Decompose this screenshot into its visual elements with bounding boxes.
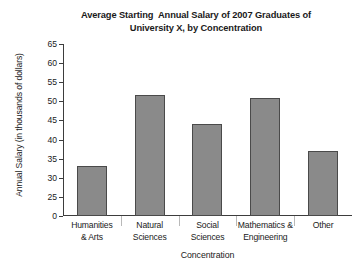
y-axis-title: Annual Salary (in thousands of dollars) — [14, 35, 24, 215]
category-label: Social Sciences — [179, 220, 237, 243]
bar-chart: Average Starting Annual Salary of 2007 G… — [0, 0, 363, 274]
bar-social-sciences — [192, 124, 222, 216]
y-tick-label: 55 — [47, 78, 57, 87]
bar-mathematics-engineering — [250, 98, 280, 216]
category-label: Other — [294, 220, 352, 232]
chart-title: Average Starting Annual Salary of 2007 G… — [46, 9, 346, 34]
y-tick-label: 60 — [47, 59, 57, 68]
x-axis-title: Concentration — [63, 250, 352, 260]
y-tick-label: 0 — [52, 212, 57, 221]
plot-area: 0253035404550556065 — [63, 44, 352, 216]
y-tick-label: 65 — [47, 40, 57, 49]
bar-slot — [121, 44, 179, 216]
y-tick-label: 45 — [47, 116, 57, 125]
x-axis-category-labels: Humanities & ArtsNatural SciencesSocial … — [63, 220, 352, 248]
y-tick-label: 25 — [47, 192, 57, 201]
category-label: Humanities & Arts — [63, 220, 121, 243]
bar-slot — [294, 44, 352, 216]
y-tick-label: 50 — [47, 97, 57, 106]
bar-slot — [179, 44, 237, 216]
y-tick-label: 40 — [47, 135, 57, 144]
bar-humanities-arts — [77, 166, 107, 216]
y-tick-label: 35 — [47, 154, 57, 163]
bar-natural-sciences — [135, 95, 165, 216]
bar-slot — [63, 44, 121, 216]
y-tick-label: 30 — [47, 173, 57, 182]
category-label: Natural Sciences — [121, 220, 179, 243]
category-label: Mathematics & Engineering — [236, 220, 294, 243]
y-tick-mark — [59, 216, 63, 217]
bar-other — [308, 151, 338, 216]
bar-slot — [236, 44, 294, 216]
